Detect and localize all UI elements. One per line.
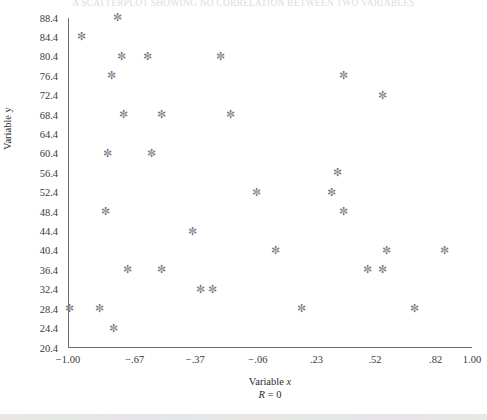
data-point: ✼ bbox=[271, 245, 280, 256]
x-axis-tick-labels: −1.00−.67−.37−.06.23.52.821.00 bbox=[0, 353, 487, 367]
data-point: ✼ bbox=[101, 206, 110, 217]
y-axis-tick-label: 84.4 bbox=[0, 32, 58, 43]
y-axis-tick-label: 20.4 bbox=[0, 343, 58, 354]
data-point: ✼ bbox=[103, 148, 112, 159]
y-axis-tick-label: 52.4 bbox=[0, 187, 58, 198]
y-axis-tick-label: 48.4 bbox=[0, 207, 58, 218]
data-point: ✼ bbox=[113, 12, 122, 23]
y-axis-tick-label: 60.4 bbox=[0, 148, 58, 159]
x-axis-title: Variable x bbox=[68, 376, 472, 387]
data-point: ✼ bbox=[378, 90, 387, 101]
y-axis-tick-label: 56.4 bbox=[0, 168, 58, 179]
data-point: ✼ bbox=[363, 264, 372, 275]
data-point: ✼ bbox=[107, 70, 116, 81]
x-axis-title-var: x bbox=[286, 376, 291, 387]
x-axis-tick-label: −.06 bbox=[228, 353, 288, 366]
y-axis-tick-label: 36.4 bbox=[0, 265, 58, 276]
x-axis-tick-label: −.37 bbox=[165, 353, 225, 366]
data-point: ✼ bbox=[117, 51, 126, 62]
y-axis-tick-label: 76.4 bbox=[0, 71, 58, 82]
x-axis-tick-label: .23 bbox=[286, 353, 346, 366]
y-axis-tick-label: 32.4 bbox=[0, 284, 58, 295]
chart-title: A SCATTERPLOT SHOWING NO CORRELATION BET… bbox=[0, 0, 487, 9]
y-axis-tick-label: 72.4 bbox=[0, 90, 58, 101]
data-point: ✼ bbox=[410, 303, 419, 314]
data-point: ✼ bbox=[339, 206, 348, 217]
data-points-layer: ✼✼✼✼✼✼✼✼✼✼✼✼✼✼✼✼✼✼✼✼✼✼✼✼✼✼✼✼✼✼✼✼✼ bbox=[69, 18, 472, 347]
data-point: ✼ bbox=[333, 167, 342, 178]
data-point: ✼ bbox=[216, 51, 225, 62]
y-axis-tick-label: 44.4 bbox=[0, 226, 58, 237]
data-point: ✼ bbox=[297, 303, 306, 314]
data-point: ✼ bbox=[188, 226, 197, 237]
data-point: ✼ bbox=[65, 303, 74, 314]
y-axis-title: Variable y bbox=[2, 107, 13, 150]
x-axis-tick-label: −.67 bbox=[105, 353, 165, 366]
data-point: ✼ bbox=[95, 303, 104, 314]
data-point: ✼ bbox=[109, 323, 118, 334]
y-axis-tick-label: 40.4 bbox=[0, 245, 58, 256]
y-axis-tick-label: 24.4 bbox=[0, 323, 58, 334]
data-point: ✼ bbox=[123, 264, 132, 275]
data-point: ✼ bbox=[143, 51, 152, 62]
y-axis-tick-label: 80.4 bbox=[0, 51, 58, 62]
data-point: ✼ bbox=[196, 284, 205, 295]
data-point: ✼ bbox=[208, 284, 217, 295]
data-point: ✼ bbox=[382, 245, 391, 256]
data-point: ✼ bbox=[157, 264, 166, 275]
plot-area: ✼✼✼✼✼✼✼✼✼✼✼✼✼✼✼✼✼✼✼✼✼✼✼✼✼✼✼✼✼✼✼✼✼ bbox=[68, 18, 472, 348]
x-axis-tick-label: 1.00 bbox=[442, 353, 487, 366]
data-point: ✼ bbox=[119, 109, 128, 120]
x-axis-tick-label: −1.00 bbox=[38, 353, 98, 366]
data-point: ✼ bbox=[440, 245, 449, 256]
x-axis-title-text: Variable bbox=[249, 376, 287, 387]
data-point: ✼ bbox=[378, 264, 387, 275]
data-point: ✼ bbox=[157, 109, 166, 120]
scatterplot-figure: A SCATTERPLOT SHOWING NO CORRELATION BET… bbox=[0, 0, 487, 420]
data-point: ✼ bbox=[252, 187, 261, 198]
y-axis-tick-label: 28.4 bbox=[0, 304, 58, 315]
data-point: ✼ bbox=[147, 148, 156, 159]
y-axis-tick-label: 88.4 bbox=[0, 13, 58, 24]
page-edge-artifact bbox=[0, 414, 487, 420]
data-point: ✼ bbox=[77, 31, 86, 42]
correlation-annotation: R = 0 bbox=[68, 389, 472, 400]
data-point: ✼ bbox=[327, 187, 336, 198]
data-point: ✼ bbox=[226, 109, 235, 120]
correlation-value: = 0 bbox=[265, 389, 281, 400]
data-point: ✼ bbox=[339, 70, 348, 81]
x-axis-tick-label: .52 bbox=[345, 353, 405, 366]
